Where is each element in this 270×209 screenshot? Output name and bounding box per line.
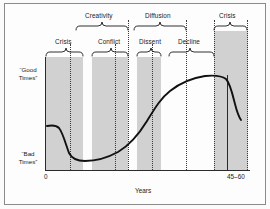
x-tick-start: 0 [44,173,48,180]
divider-crisis-1 [70,44,71,170]
bracket-diffusion [134,22,186,30]
band-dissent [137,57,161,170]
bracket-dissent [137,48,161,56]
figure-root: Creativity Diffusion Crisis Crisis Confl… [0,0,270,209]
bracket-conflict [92,48,128,56]
divider-dissent [152,44,153,170]
divider-conflict [115,44,116,170]
y-axis [45,57,46,171]
divider-creativity-end [128,20,129,170]
y-label-bad-times: “Bad Times” [13,150,43,165]
divider-decline [214,20,215,170]
bracket-crisis-1 [46,48,83,56]
y-label-good-line2: Times” [13,74,43,82]
band-conflict [92,57,128,170]
bracket-label-crisis-top: Crisis [219,12,236,19]
y-label-bad-line2: Times” [13,158,43,166]
crisis-onset-marker [227,75,228,170]
y-label-good-times: “Good Times” [13,66,43,81]
divider-crisis-2-end [247,20,248,170]
band-crisis-2 [214,31,248,170]
bracket-label-diffusion: Diffusion [145,12,171,19]
bracket-crisis-top [214,22,247,30]
x-axis [45,170,250,171]
x-axis-title: Years [135,187,151,194]
plot-area: Creativity Diffusion Crisis Crisis Confl… [0,0,270,209]
band-crisis-1 [46,57,83,170]
y-label-good-line1: “Good [13,66,43,74]
bracket-label-decline: Decline [178,38,200,45]
x-tick-end: 45–60 [227,173,245,180]
bracket-label-conflict: Conflict [98,38,120,45]
bracket-label-crisis-1: Crisis [55,38,72,45]
bracket-label-creativity: Creativity [85,12,113,19]
bracket-decline [169,48,214,56]
bracket-creativity [76,22,128,30]
y-label-bad-line1: “Bad [13,150,43,158]
bracket-label-dissent: Dissent [139,38,161,45]
